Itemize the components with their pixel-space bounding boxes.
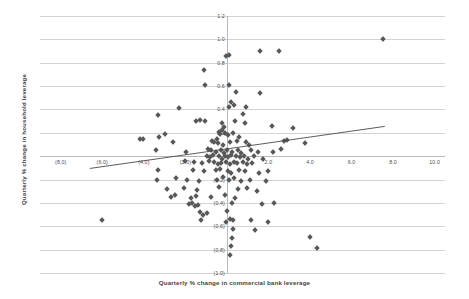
gridline-y	[40, 273, 445, 274]
x-tick-label: (6.0)	[97, 159, 108, 165]
x-tick-label: 4.0	[306, 159, 314, 165]
x-tick-label: (2.0)	[180, 159, 191, 165]
x-axis-title: Quarterly % change in commercial bank le…	[0, 279, 469, 286]
trendline	[40, 16, 445, 273]
x-tick-label: (8.0)	[55, 159, 66, 165]
y-tick-label: (0.4)	[214, 200, 225, 206]
x-tick-label: 2.0	[265, 159, 273, 165]
x-tick-label: 8.0	[389, 159, 397, 165]
y-axis-title: Quarterly % change in household leverage	[20, 55, 27, 225]
plot-area: (8.0)(6.0)(4.0)(2.0)2.04.06.08.010.01.21…	[40, 16, 445, 273]
scatter-chart: (8.0)(6.0)(4.0)(2.0)2.04.06.08.010.01.21…	[0, 0, 469, 299]
y-tick-label: 1.0	[217, 36, 225, 42]
y-tick-label: 1.2	[217, 13, 225, 19]
y-tick-label: (1.0)	[214, 270, 225, 276]
trendline-segment	[90, 126, 385, 168]
x-tick-label: 6.0	[348, 159, 356, 165]
y-tick-label: (0.2)	[214, 177, 225, 183]
y-tick-label: (0.6)	[214, 223, 225, 229]
y-tick-label: 0.2	[217, 130, 225, 136]
x-tick-label: 10.0	[429, 159, 440, 165]
y-tick-label: 0.6	[217, 83, 225, 89]
y-tick-label: 0.8	[217, 60, 225, 66]
y-tick-label: 0.4	[217, 106, 225, 112]
y-tick-label: (0.8)	[214, 247, 225, 253]
x-tick-label: (4.0)	[138, 159, 149, 165]
